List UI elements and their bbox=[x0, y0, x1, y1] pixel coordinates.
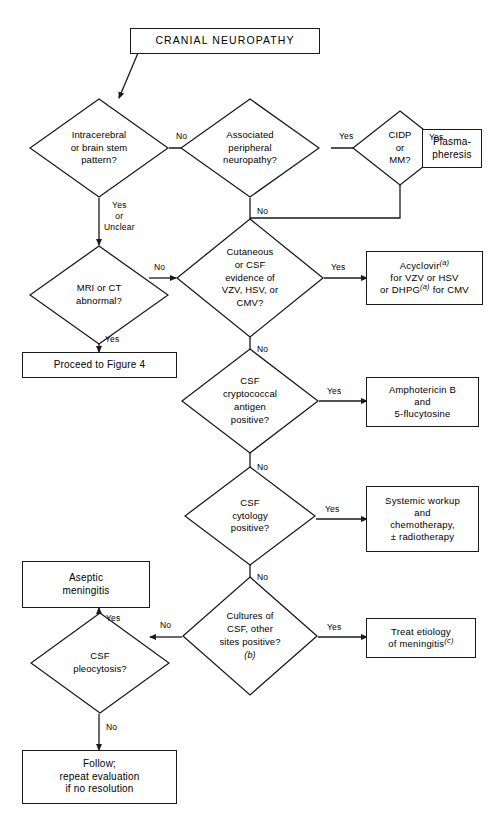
node-proceed-to-figure-4-label: Proceed to Figure 4 bbox=[54, 359, 146, 372]
edge-label-crypto-yes: Yes bbox=[327, 386, 341, 397]
decision-csf-pleocytosis[interactable]: CSFpleocytosis? bbox=[30, 612, 170, 714]
edge-label-cytology-no: No bbox=[257, 572, 268, 583]
edge-label-crypto-no: No bbox=[257, 462, 268, 473]
decision-csf-pleocytosis-label: CSFpleocytosis? bbox=[30, 612, 170, 714]
edge-label-intracerebral-yes-unclear: YesorUnclear bbox=[104, 200, 135, 233]
edge-label-cultures-yes: Yes bbox=[327, 622, 341, 633]
node-acyclovir-treatment-label: Acyclovir(a)for VZV or HSVor DHPG(a) for… bbox=[380, 260, 469, 296]
edge-label-cutaneous-no: No bbox=[257, 344, 268, 355]
edge-label-cidp-yes: Yes bbox=[429, 132, 443, 143]
decision-csf-cytology-label: CSFcytologypositive? bbox=[184, 466, 316, 566]
decision-cultures-csf-other-sites-label: Cultures ofCSF, othersites positive?(b) bbox=[182, 576, 318, 696]
node-cranial-neuropathy: CRANIAL NEUROPATHY bbox=[130, 28, 320, 54]
decision-cutaneous-csf-evidence[interactable]: Cutaneousor CSFevidence ofVZV, HSV, orCM… bbox=[176, 218, 324, 338]
edge-label-cytology-yes: Yes bbox=[325, 504, 339, 515]
decision-mri-or-ct-abnormal[interactable]: MRI or CTabnormal? bbox=[29, 245, 169, 345]
node-cranial-neuropathy-label: CRANIAL NEUROPATHY bbox=[155, 34, 294, 47]
edge-label-peripheral-no: No bbox=[257, 206, 268, 217]
node-follow-repeat-evaluation-label: Follow;repeat evaluationif no resolution bbox=[59, 758, 139, 796]
edge-label-cutaneous-yes: Yes bbox=[331, 262, 345, 273]
node-follow-repeat-evaluation: Follow;repeat evaluationif no resolution bbox=[22, 750, 177, 804]
edge-label-mri-no: No bbox=[154, 262, 165, 273]
decision-mri-or-ct-abnormal-label: MRI or CTabnormal? bbox=[29, 245, 169, 345]
node-systemic-workup-chemotherapy: Systemic workupandchemotherapy,± radioth… bbox=[366, 486, 479, 552]
node-aseptic-meningitis: Asepticmeningitis bbox=[22, 561, 150, 608]
edge-label-pleocytosis-no: No bbox=[106, 722, 117, 733]
decision-cultures-csf-other-sites[interactable]: Cultures ofCSF, othersites positive?(b) bbox=[182, 576, 318, 696]
node-amphotericin-treatment-label: Amphotericin Band5-flucytosine bbox=[389, 384, 456, 420]
decision-associated-peripheral-neuropathy[interactable]: Associatedperipheralneuropathy? bbox=[180, 98, 320, 198]
edge-label-peripheral-yes: Yes bbox=[339, 131, 353, 142]
edge-label-cultures-no: No bbox=[160, 620, 171, 631]
decision-intracerebral-pattern[interactable]: Intracerebralor brain stempattern? bbox=[29, 98, 169, 198]
decision-associated-peripheral-neuropathy-label: Associatedperipheralneuropathy? bbox=[180, 98, 320, 198]
decision-csf-cryptococcal-antigen[interactable]: CSFcryptococcalantigenpositive? bbox=[181, 348, 319, 454]
decision-cutaneous-csf-evidence-label: Cutaneousor CSFevidence ofVZV, HSV, orCM… bbox=[176, 218, 324, 338]
flowchart-canvas: CRANIAL NEUROPATHY Intracerebralor brain… bbox=[0, 0, 489, 816]
decision-intracerebral-pattern-label: Intracerebralor brain stempattern? bbox=[29, 98, 169, 198]
node-proceed-to-figure-4: Proceed to Figure 4 bbox=[22, 352, 177, 378]
edge-label-intracerebral-no: No bbox=[176, 131, 187, 142]
node-aseptic-meningitis-label: Asepticmeningitis bbox=[62, 572, 109, 597]
node-amphotericin-treatment: Amphotericin Band5-flucytosine bbox=[366, 377, 479, 427]
edge-label-mri-yes: Yes bbox=[105, 334, 119, 345]
node-treat-etiology-meningitis: Treat etiologyof meningitis(c) bbox=[366, 618, 476, 658]
decision-csf-cytology[interactable]: CSFcytologypositive? bbox=[184, 466, 316, 566]
node-systemic-workup-chemotherapy-label: Systemic workupandchemotherapy,± radioth… bbox=[385, 495, 460, 543]
edge-label-pleocytosis-yes: Yes bbox=[106, 613, 120, 624]
node-acyclovir-treatment: Acyclovir(a)for VZV or HSVor DHPG(a) for… bbox=[366, 251, 483, 305]
node-treat-etiology-meningitis-label: Treat etiologyof meningitis(c) bbox=[388, 626, 453, 650]
decision-csf-cryptococcal-antigen-label: CSFcryptococcalantigenpositive? bbox=[181, 348, 319, 454]
